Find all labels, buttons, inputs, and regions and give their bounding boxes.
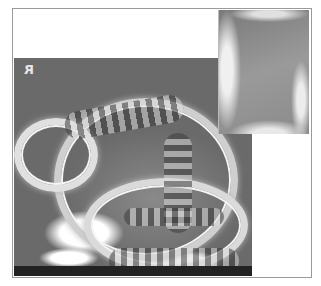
film-edge [14, 266, 252, 276]
main-radiograph: R [14, 58, 252, 276]
haustral-folds [124, 208, 224, 226]
orientation-marker: R [22, 62, 34, 77]
inset-radiograph [218, 10, 309, 134]
